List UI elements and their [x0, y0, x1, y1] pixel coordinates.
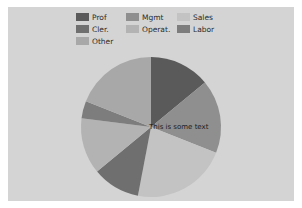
legend-swatch-icon	[76, 25, 89, 33]
pie-chart-figure: This is some text ProfMgmtSalesCler.Oper…	[0, 0, 302, 208]
legend-swatch-icon	[177, 13, 190, 21]
legend-label: Prof	[92, 13, 107, 22]
legend-swatch-icon	[76, 13, 89, 21]
legend-entry[interactable]: Operat.	[126, 23, 177, 35]
legend-label: Mgmt	[142, 13, 163, 22]
legend-label: Other	[92, 37, 113, 46]
legend-swatch-icon	[126, 25, 139, 33]
legend-label: Labor	[193, 25, 214, 34]
center-annotation-text: This is some text	[149, 123, 208, 131]
legend-label: Cler.	[92, 25, 109, 34]
chart-legend: ProfMgmtSalesCler.Operat.LaborOther	[76, 11, 228, 49]
legend-entry[interactable]: Other	[76, 35, 126, 47]
legend-swatch-icon	[126, 13, 139, 21]
legend-entry[interactable]: Mgmt	[126, 11, 177, 23]
legend-entry[interactable]: Cler.	[76, 23, 126, 35]
legend-swatch-icon	[177, 25, 190, 33]
legend-label: Operat.	[142, 25, 170, 34]
legend-entry[interactable]: Sales	[177, 11, 228, 23]
legend-label: Sales	[193, 13, 213, 22]
legend-entry[interactable]: Labor	[177, 23, 228, 35]
legend-entry[interactable]: Prof	[76, 11, 126, 23]
legend-swatch-icon	[76, 37, 89, 45]
